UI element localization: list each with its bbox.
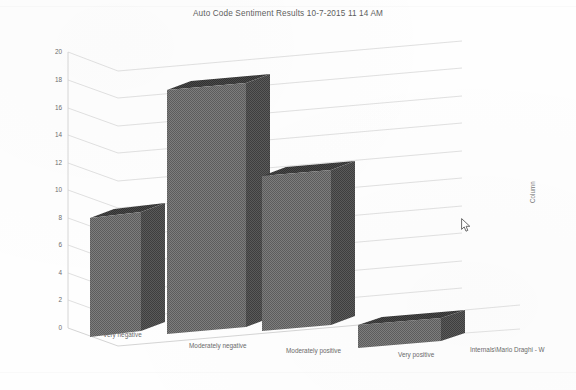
category-label-moderately-negative: Moderately negative: [189, 342, 247, 349]
chart-depth-leader-lines: [465, 305, 520, 333]
bar-moderately-positive: [262, 161, 355, 331]
bar-very-positive: [358, 310, 465, 348]
y-tick-8: 8: [44, 214, 62, 221]
y-tick-20: 20: [44, 48, 62, 55]
bar-very-negative: [90, 203, 165, 337]
category-label-very-positive: Very positive: [398, 351, 434, 358]
chart-plot-area: [0, 0, 576, 390]
bar-moderately-negative: [167, 74, 270, 334]
y-tick-12: 12: [44, 159, 62, 166]
y-tick-10: 10: [44, 186, 62, 193]
y-tick-2: 2: [44, 296, 62, 303]
y-tick-16: 16: [44, 104, 62, 111]
legend-label-column: Column: [529, 181, 536, 203]
y-tick-18: 18: [44, 76, 62, 83]
category-label-very-negative: Very negative: [103, 331, 142, 338]
mouse-pointer-icon: [461, 218, 472, 233]
y-tick-6: 6: [44, 241, 62, 248]
series-label-internals-mario-draghi: Internals\Mario Draghi - W: [470, 346, 545, 353]
y-tick-0: 0: [44, 324, 62, 331]
y-tick-4: 4: [44, 269, 62, 276]
y-tick-14: 14: [44, 131, 62, 138]
category-label-moderately-positive: Moderately positive: [286, 347, 341, 354]
chart-svg: [0, 0, 576, 390]
